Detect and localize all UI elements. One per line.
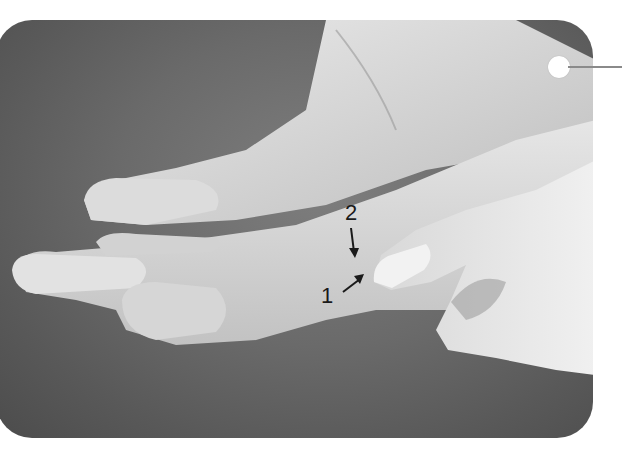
arrow-down-icon <box>343 226 363 260</box>
corner-marker-line <box>568 66 622 68</box>
foot-massage-photo <box>0 20 593 438</box>
photo-illustration <box>0 20 593 438</box>
callout-2-text: 2 <box>345 200 357 225</box>
arrow-up-right-icon <box>340 272 368 296</box>
callout-label-2: 2 <box>345 202 357 224</box>
callout-1-text: 1 <box>321 283 333 308</box>
callout-label-1: 1 <box>321 285 333 307</box>
corner-marker-dot <box>548 56 570 78</box>
